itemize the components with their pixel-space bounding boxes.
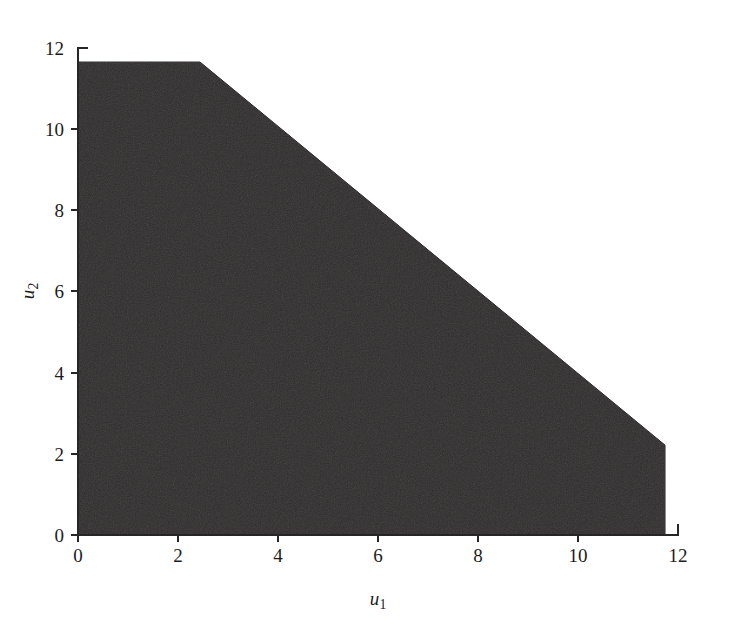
y-axis-title-subscript: 2 [26,283,41,290]
x-tick-label-10: 10 [569,546,588,565]
y-tick-label-0: 0 [55,526,65,545]
x-tick-mark-8 [477,535,479,542]
x-tick-mark-6 [377,535,379,542]
y-tick-label-6: 6 [55,282,65,301]
x-tick-label-8: 8 [473,546,483,565]
y-tick-mark-4 [71,372,78,374]
y-axis-title: u2 [17,283,39,299]
figure-canvas: 0 2 4 6 8 10 12 0 2 4 6 8 10 12 u1 u2 [0,0,733,634]
x-tick-label-6: 6 [373,546,383,565]
y-tick-mark-8 [71,209,78,211]
y-tick-label-8: 8 [55,201,65,220]
x-tick-mark-0 [77,535,79,542]
y-tick-mark-2 [71,453,78,455]
y-tick-mark-10 [71,128,78,130]
y-axis-title-base: u [17,290,38,300]
y-tick-label-4: 4 [55,364,65,383]
y-tick-mark-6 [71,290,78,292]
x-tick-mark-10 [577,535,579,542]
y-tick-label-2: 2 [55,445,65,464]
y-axis-top-end-tick [77,47,88,49]
x-tick-mark-4 [277,535,279,542]
x-tick-label-2: 2 [173,546,183,565]
x-axis-title-subscript: 1 [380,597,387,612]
x-tick-mark-2 [177,535,179,542]
x-tick-label-12: 12 [669,546,688,565]
x-axis-title-base: u [370,588,380,609]
x-axis-title: u1 [370,588,386,610]
x-axis-right-end-tick [677,524,679,536]
plot-area [78,47,678,535]
x-tick-label-4: 4 [273,546,283,565]
feasible-region-grain-overlay [78,62,665,535]
x-tick-label-0: 0 [73,546,83,565]
feasible-region-plot [78,47,678,535]
y-tick-label-12: 12 [45,39,64,58]
y-tick-mark-0 [71,534,78,536]
y-tick-label-10: 10 [45,120,64,139]
